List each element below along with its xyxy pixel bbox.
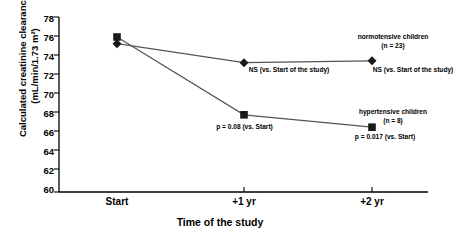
legend-label-normotensive: normotensive children xyxy=(348,33,438,40)
annotation-hypertensive-1yr: p = 0.08 (vs. Start) xyxy=(192,123,297,130)
x-axis-title: Time of the study xyxy=(0,216,440,228)
annotation-hypertensive-2yr: p = 0.017 (vs. Start) xyxy=(330,133,440,140)
x-tick-label-1yr: +1 yr xyxy=(204,196,284,207)
series-hypertensive xyxy=(113,33,376,131)
x-tick-label-start: Start xyxy=(77,196,157,207)
series-normotensive xyxy=(113,39,377,67)
legend-n-normotensive: (n = 23) xyxy=(348,42,438,49)
x-tick-label-2yr: +2 yr xyxy=(332,196,412,207)
annotation-normotensive-2yr: NS (vs. Start of the study) xyxy=(330,66,458,73)
legend-label-hypertensive: hypertensive children xyxy=(348,108,438,115)
legend-n-hypertensive: (n = 8) xyxy=(348,117,438,124)
